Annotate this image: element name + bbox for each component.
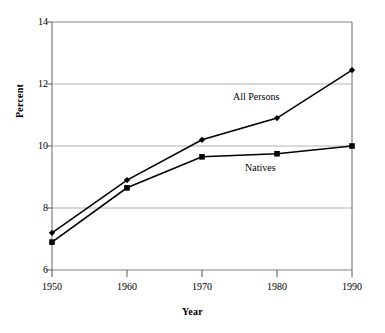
data-point-marker	[199, 137, 205, 143]
data-point-marker	[349, 143, 355, 149]
gridlines	[52, 22, 352, 270]
x-axis-ticks	[52, 270, 352, 277]
series-natives	[49, 143, 355, 245]
data-point-marker	[49, 239, 55, 245]
data-point-marker	[199, 154, 205, 160]
data-point-marker	[274, 151, 280, 157]
data-point-marker	[124, 185, 130, 191]
series-layer	[49, 67, 355, 245]
series-line	[52, 146, 352, 242]
chart-plot-area	[0, 0, 385, 333]
chart-container: Percent Year 14 12 10 8 6 1950 1960 1970…	[0, 0, 385, 333]
